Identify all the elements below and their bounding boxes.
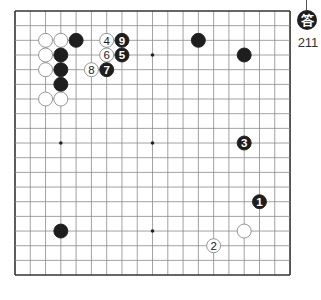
black-stone — [191, 33, 205, 47]
star-point — [151, 141, 155, 145]
white-stone — [54, 92, 68, 106]
black-stone — [69, 33, 83, 47]
stone-circle — [39, 48, 53, 62]
move-number: 5 — [119, 49, 126, 61]
stone-circle — [54, 33, 68, 47]
black-stone — [237, 48, 251, 62]
star-point — [151, 53, 155, 57]
stone-circle — [54, 77, 68, 91]
white-stone — [39, 92, 53, 106]
black-stone — [54, 63, 68, 77]
move-number: 8 — [88, 64, 94, 76]
stone-circle — [237, 224, 251, 238]
white-stone-2: 2 — [207, 239, 221, 253]
white-stone-8: 8 — [84, 63, 98, 77]
move-number: 2 — [210, 240, 216, 252]
stone-circle — [39, 33, 53, 47]
move-number: 7 — [103, 64, 109, 76]
move-number: 6 — [103, 49, 109, 61]
move-number: 4 — [103, 35, 110, 47]
problem-number: 211 — [294, 35, 321, 50]
black-stone-7: 7 — [100, 63, 114, 77]
black-stone-5: 5 — [115, 48, 129, 62]
stone-circle — [191, 33, 205, 47]
white-stone-6: 6 — [100, 48, 114, 62]
white-stone — [39, 48, 53, 62]
black-stone — [54, 224, 68, 238]
stone-circle — [69, 33, 83, 47]
black-stone — [54, 48, 68, 62]
answer-badge: 答 — [297, 10, 317, 30]
black-stone-1: 1 — [252, 195, 266, 209]
stone-circle — [39, 92, 53, 106]
white-stone — [39, 63, 53, 77]
black-stone-9: 9 — [115, 33, 129, 47]
stone-circle — [54, 48, 68, 62]
move-number: 3 — [241, 137, 247, 149]
stone-circle — [39, 63, 53, 77]
star-point — [151, 229, 155, 233]
stone-circle — [54, 224, 68, 238]
stone-circle — [54, 63, 68, 77]
black-stone-3: 3 — [237, 136, 251, 150]
white-stone — [39, 33, 53, 47]
go-board: 496587312 — [0, 0, 321, 300]
badge-stem — [306, 0, 307, 10]
move-number: 9 — [119, 35, 125, 47]
stone-circle — [237, 48, 251, 62]
white-stone — [54, 33, 68, 47]
white-stone — [237, 224, 251, 238]
star-point — [59, 141, 63, 145]
stone-circle — [54, 92, 68, 106]
move-number: 1 — [256, 196, 263, 208]
black-stone — [54, 77, 68, 91]
white-stone-4: 4 — [100, 33, 114, 47]
